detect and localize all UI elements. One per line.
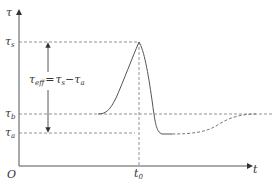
tau-b-label: τb [5,107,16,121]
stress-curve-solid [98,42,172,134]
tau-eff-equation: τeff=τs−τa [29,73,85,87]
stress-curve-recovery-dashed [172,114,256,134]
y-axis-label: τ [6,6,13,19]
t0-label: t0 [134,167,143,181]
stress-time-diagram: τ t O τs τb τa t0 τeff=τs−τa [0,0,277,185]
x-axis-label: t [253,163,258,176]
origin-label: O [7,168,16,181]
tau-a-label: τa [5,126,15,140]
tau-s-label: τs [5,35,15,49]
